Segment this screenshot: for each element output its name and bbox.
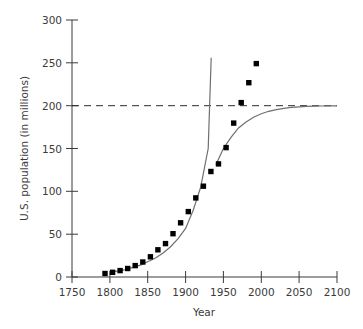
data-marker [201,184,206,189]
data-marker [133,263,138,268]
data-marker [117,268,122,273]
y-tick-label-0: 0 [55,271,62,283]
y-tick-label-200: 200 [42,100,62,112]
data-marker [208,169,213,174]
data-marker [163,241,168,246]
x-tick-label-2100: 2100 [324,286,351,298]
data-marker [155,247,160,252]
data-marker [186,209,191,214]
data-marker [125,266,130,271]
x-tick-label-1950: 1950 [210,286,237,298]
data-marker [148,254,153,259]
x-tick-label-1850: 1850 [134,286,161,298]
data-marker [170,231,175,236]
y-tick-label-250: 250 [42,57,62,69]
y-tick-label-50: 50 [49,228,62,240]
plot-area-background [72,20,337,277]
chart-figure: 300 250 200 150 100 50 0 1750 1800 1850 … [0,0,363,329]
data-marker [231,120,236,125]
data-marker [246,80,251,85]
y-axis-title: U.S. population (in millions) [18,76,30,221]
x-tick-label-1800: 1800 [97,286,124,298]
y-axis-tick-labels: 300 250 200 150 100 50 0 [42,14,62,283]
x-tick-label-2050: 2050 [286,286,313,298]
data-marker [102,271,107,276]
data-marker [193,195,198,200]
data-marker [216,161,221,166]
data-marker [254,61,259,66]
y-tick-label-300: 300 [42,14,62,26]
x-tick-label-1900: 1900 [172,286,199,298]
x-axis-tick-labels: 1750 1800 1850 1900 1950 2000 2050 2100 [59,286,351,298]
population-growth-chart: 300 250 200 150 100 50 0 1750 1800 1850 … [0,0,363,329]
x-tick-label-1750: 1750 [59,286,86,298]
data-marker [178,220,183,225]
data-marker [110,270,115,275]
data-marker [239,100,244,105]
x-axis-title: Year [192,306,216,318]
data-marker [223,145,228,150]
y-tick-label-100: 100 [42,185,62,197]
y-tick-label-150: 150 [42,143,62,155]
x-tick-label-2000: 2000 [248,286,275,298]
data-marker [140,259,145,264]
